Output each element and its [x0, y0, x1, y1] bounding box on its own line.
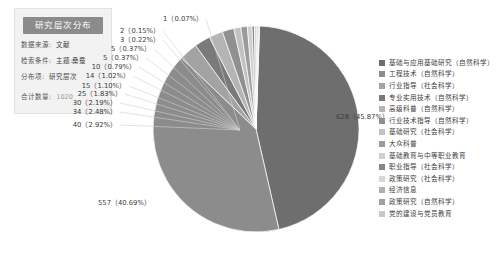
pie-slice-label: 5（0.37%）: [111, 45, 151, 53]
legend-item[interactable]: 基础教育与中等职业教育: [379, 150, 499, 162]
legend-swatch-icon: [379, 141, 385, 147]
legend-item[interactable]: 高级科普（自然科学）: [379, 103, 499, 115]
chart-page: 研究层次分布 数据来源: 文献 检索条件: 主题:桑蚕 分布项: 研究层次 合计…: [0, 0, 500, 261]
pie-slice-label: 30（2.19%）: [73, 99, 117, 107]
pie-slice-label: 3（0.22%）: [120, 36, 160, 44]
legend-item-label: 专业实用技术（自然科学）: [389, 94, 473, 102]
legend-swatch-icon: [379, 211, 385, 217]
legend-item-label: 政策研究（社会科学）: [389, 175, 459, 183]
legend-item-label: 基础教育与中等职业教育: [389, 152, 466, 160]
legend-item-label: 工程技术（自然科学）: [389, 70, 459, 78]
legend-swatch-icon: [379, 106, 385, 112]
panel-row-dimension-value: 研究层次: [49, 73, 77, 81]
legend-swatch-icon: [379, 164, 385, 170]
legend-swatch-icon: [379, 83, 385, 89]
legend-item[interactable]: 基础研究（社会科学）: [379, 127, 499, 139]
panel-title: 研究层次分布: [23, 17, 103, 34]
legend-item-label: 职业指导（社会科学）: [389, 163, 459, 171]
panel-row-source: 数据来源: 文献: [21, 34, 105, 50]
legend-item[interactable]: 政策研究（社会科学）: [379, 173, 499, 185]
legend-item[interactable]: 基础与应用基础研究（自然科学）: [379, 57, 499, 69]
legend-item-label: 行业技术指导（自然科学）: [389, 117, 473, 125]
legend-swatch-icon: [379, 187, 385, 193]
panel-row-source-value: 文献: [56, 41, 70, 49]
panel-row-total-value: 1020: [56, 93, 73, 101]
pie-slice-label: 5（0.37%）: [103, 54, 143, 62]
legend-swatch-icon: [379, 118, 385, 124]
pie-slice-label: 557（40.69%）: [98, 199, 151, 207]
legend-item-label: 政策研究（自然科学）: [389, 198, 459, 206]
panel-row-source-key: 数据来源:: [21, 41, 51, 49]
pie-slice-label: 40（2.92%）: [73, 121, 117, 129]
legend-item[interactable]: 专业实用技术（自然科学）: [379, 92, 499, 104]
panel-row-query-key: 检索条件:: [21, 57, 51, 65]
legend-swatch-icon: [379, 60, 385, 66]
legend-item-label: 基础与应用基础研究（自然科学）: [389, 59, 494, 67]
legend-item[interactable]: 党的建设与党员教育: [379, 208, 499, 220]
legend-item-label: 基础研究（社会科学）: [389, 128, 459, 136]
pie-slice-label: 34（2.48%）: [73, 108, 117, 116]
panel-row-query-value: 主题:桑蚕: [56, 57, 86, 65]
legend-item-label: 大众科普: [389, 140, 417, 148]
legend: 基础与应用基础研究（自然科学）工程技术（自然科学）行业指导（社会科学）专业实用技…: [379, 57, 499, 219]
legend-item-label: 党的建设与党员教育: [389, 210, 452, 218]
pie-slice-label: 15（1.10%）: [82, 82, 126, 90]
panel-row-dimension-key: 分布项:: [21, 73, 44, 81]
pie-slice-label: 10（0.79%）: [92, 63, 136, 71]
legend-item[interactable]: 经济信息: [379, 185, 499, 197]
legend-item[interactable]: 行业技术指导（自然科学）: [379, 115, 499, 127]
legend-swatch-icon: [379, 95, 385, 101]
legend-item[interactable]: 工程技术（自然科学）: [379, 69, 499, 81]
legend-swatch-icon: [379, 199, 385, 205]
legend-item-label: 经济信息: [389, 186, 417, 194]
pie-slice-label: 25（1.83%）: [78, 90, 122, 98]
legend-item[interactable]: 职业指导（社会科学）: [379, 161, 499, 173]
pie-chart: [148, 18, 368, 240]
pie-slice-label: 14（1.02%）: [86, 72, 130, 80]
legend-swatch-icon: [379, 153, 385, 159]
pie-slice-label: 2（0.15%）: [120, 27, 160, 35]
legend-item-label: 行业指导（社会科学）: [389, 82, 459, 90]
legend-swatch-icon: [379, 176, 385, 182]
panel-row-total-key: 合计数量:: [21, 93, 51, 101]
legend-item[interactable]: 行业指导（社会科学）: [379, 80, 499, 92]
legend-swatch-icon: [379, 71, 385, 77]
legend-item[interactable]: 大众科普: [379, 138, 499, 150]
pie-chart-svg: [148, 18, 368, 240]
legend-item-label: 高级科普（自然科学）: [389, 105, 459, 113]
legend-swatch-icon: [379, 129, 385, 135]
legend-item[interactable]: 政策研究（自然科学）: [379, 196, 499, 208]
pie-slice-label: 1（0.07%）: [163, 15, 203, 23]
